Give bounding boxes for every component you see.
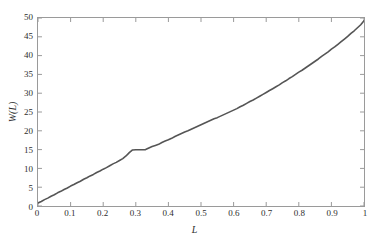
x-tick-label: 1 — [363, 209, 368, 218]
y-tick-label: 5 — [29, 184, 34, 193]
y-tick-label: 35 — [24, 70, 33, 79]
x-tick-label: 0.6 — [228, 209, 239, 218]
y-tick-label: 45 — [24, 32, 33, 41]
x-tick-label: 0.2 — [97, 209, 108, 218]
data-series-line — [38, 21, 364, 203]
plot-area — [37, 17, 365, 207]
x-tick-label: 0.1 — [64, 209, 75, 218]
y-tick-label: 30 — [24, 89, 33, 98]
y-tick-label: 25 — [24, 108, 33, 117]
x-tick-label: 0.8 — [294, 209, 305, 218]
y-tick-label: 40 — [24, 51, 33, 60]
plot-svg — [38, 18, 364, 206]
x-tick-label: 0 — [35, 209, 40, 218]
x-tick-label: 0.4 — [163, 209, 174, 218]
x-tick-label: 0.9 — [327, 209, 338, 218]
y-tick-label: 10 — [24, 165, 33, 174]
y-tick-label: 20 — [24, 127, 33, 136]
x-axis-tick-labels: 00.10.20.30.40.50.60.70.80.91 — [37, 209, 365, 223]
y-tick-label: 0 — [29, 203, 34, 212]
y-tick-label: 15 — [24, 146, 33, 155]
x-axis-title: L — [0, 224, 389, 235]
x-tick-label: 0.5 — [195, 209, 206, 218]
y-tick-label: 50 — [24, 13, 33, 22]
figure: 05101520253035404550 W(L) 00.10.20.30.40… — [0, 0, 389, 249]
y-axis-title: W(L) — [7, 102, 18, 123]
x-tick-label: 0.7 — [261, 209, 272, 218]
x-tick-label: 0.3 — [130, 209, 141, 218]
